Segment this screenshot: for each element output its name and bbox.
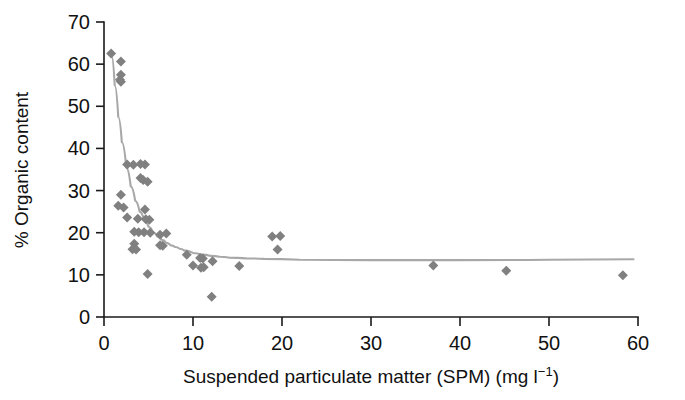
data-point-marker	[143, 269, 153, 279]
y-tick-label: 70	[68, 11, 90, 33]
y-tick-label: 40	[68, 137, 90, 159]
x-tick-label: 0	[98, 332, 109, 354]
data-point-marker	[428, 261, 438, 271]
x-tick-label: 50	[538, 332, 560, 354]
y-tick-label: 0	[79, 306, 90, 328]
data-point-marker	[207, 292, 217, 302]
data-point-marker	[106, 49, 116, 59]
y-axis-ticks: 010203040506070	[68, 11, 104, 328]
y-tick-label: 10	[68, 264, 90, 286]
x-tick-label: 60	[627, 332, 649, 354]
y-tick-label: 60	[68, 53, 90, 75]
data-point-marker	[188, 261, 198, 271]
x-axis-ticks: 0102030405060	[98, 317, 649, 354]
x-tick-label: 40	[449, 332, 471, 354]
data-point-marker	[116, 190, 126, 200]
x-tick-label: 20	[271, 332, 293, 354]
x-axis-label: Suspended particulate matter (SPM) (mg l…	[183, 364, 559, 387]
y-tick-label: 50	[68, 95, 90, 117]
data-point-marker	[275, 231, 285, 241]
data-point-marker	[234, 261, 244, 271]
data-point-marker	[501, 266, 511, 276]
data-point-marker	[208, 256, 218, 266]
y-tick-label: 30	[68, 180, 90, 202]
x-tick-label: 10	[182, 332, 204, 354]
chart-figure: 010203040506070 0102030405060 Suspended …	[0, 0, 685, 400]
data-point-marker	[273, 245, 283, 255]
data-points-group	[106, 49, 628, 302]
y-tick-label: 20	[68, 222, 90, 244]
data-point-marker	[116, 57, 126, 67]
data-point-marker	[122, 213, 132, 223]
x-tick-label: 30	[360, 332, 382, 354]
axes-group	[104, 22, 638, 317]
scatter-plot: 010203040506070 0102030405060 Suspended …	[0, 0, 685, 400]
y-axis-label: % Organic content	[11, 91, 32, 248]
data-point-marker	[618, 270, 628, 280]
data-point-marker	[145, 228, 155, 238]
fitted-curve	[112, 56, 634, 260]
